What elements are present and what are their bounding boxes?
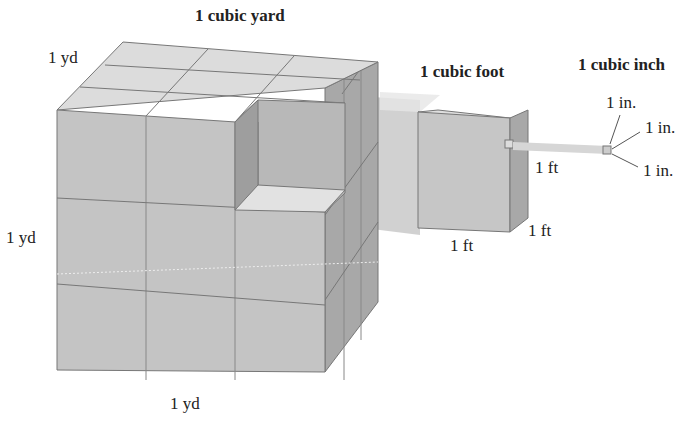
label-inch-c: 1 in. bbox=[643, 161, 673, 181]
label-yard-depth: 1 yd bbox=[48, 48, 78, 68]
label-inch-b: 1 in. bbox=[645, 118, 675, 138]
title-cubic-yard: 1 cubic yard bbox=[195, 6, 285, 26]
title-cubic-foot: 1 cubic foot bbox=[420, 62, 504, 82]
label-foot-depth: 1 ft bbox=[528, 221, 551, 241]
label-foot-height: 1 ft bbox=[535, 158, 558, 178]
label-yard-width: 1 yd bbox=[170, 394, 200, 414]
cubic-yard-cube bbox=[57, 42, 378, 380]
cubic-inch-cube bbox=[603, 115, 640, 167]
label-foot-width: 1 ft bbox=[450, 236, 473, 256]
label-yard-height: 1 yd bbox=[6, 228, 36, 248]
cubic-foot-cube bbox=[418, 110, 528, 232]
projection-beam-top bbox=[380, 92, 440, 112]
label-inch-a: 1 in. bbox=[606, 93, 636, 113]
title-cubic-inch: 1 cubic inch bbox=[578, 55, 665, 75]
